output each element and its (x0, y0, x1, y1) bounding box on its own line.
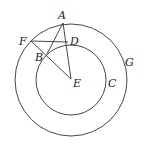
geometry-diagram: A F D B E C G (0, 0, 145, 156)
label-e: E (72, 77, 81, 90)
label-b: B (34, 51, 43, 64)
segment-fd (31, 41, 68, 42)
label-f: F (18, 35, 27, 48)
label-d: D (69, 35, 79, 48)
label-c: C (108, 77, 117, 90)
label-a: A (57, 9, 66, 22)
segment-ae (63, 23, 71, 79)
label-g: G (125, 56, 134, 69)
